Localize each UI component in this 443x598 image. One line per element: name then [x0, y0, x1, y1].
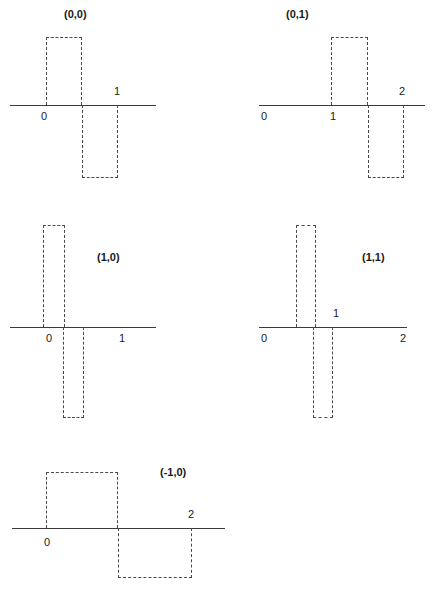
panel-title: (-1,0)	[160, 466, 186, 478]
pulse-negative	[118, 528, 192, 578]
axis-tick-label: 2	[188, 508, 194, 520]
waveform-figure: (0,0)01(0,1)012(1,0)01(1,1)012(-1,0)02	[0, 0, 443, 598]
pulse-positive	[46, 472, 118, 528]
axis-tick-label: 0	[44, 536, 50, 548]
panel-panel-m1-0: (-1,0)02	[0, 0, 443, 598]
